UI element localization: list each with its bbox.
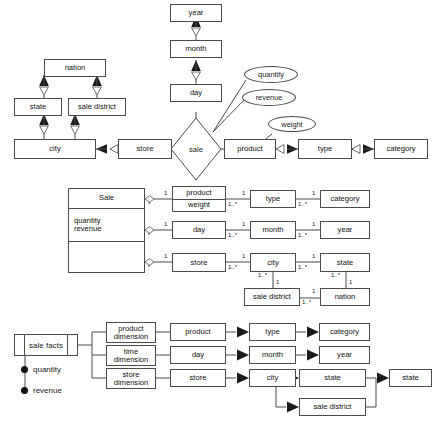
class-sale-attributes: quantity revenue [74, 217, 101, 233]
measure-bullet-revenue [21, 387, 28, 394]
measure-bullet-quantity [21, 366, 28, 373]
er-entity-day[interactable]: day [170, 84, 222, 102]
er-entity-product[interactable]: product [224, 139, 276, 159]
level-month[interactable]: month [249, 346, 296, 364]
fact-label: sale facts [29, 341, 63, 350]
class-category[interactable]: category [320, 190, 370, 208]
class-day-label: day [193, 226, 205, 234]
er-attribute-quantity[interactable]: quantity [244, 66, 298, 83]
multiplicity-sale-store-many: * [148, 264, 150, 270]
class-sale-district[interactable]: sale district [244, 288, 300, 306]
multiplicity-month-year-many: 1..* [298, 232, 307, 238]
multiplicity-city-state-one: 1 [312, 253, 315, 259]
level-store[interactable]: store [170, 369, 226, 387]
er-entity-nation[interactable]: nation [44, 59, 106, 77]
er-relationship-sale-label: sale [189, 145, 203, 154]
er-entity-year-label: year [189, 9, 204, 17]
multiplicity-district-nation-many: 1..* [302, 299, 311, 305]
er-entity-category[interactable]: category [374, 139, 428, 159]
dimension-store-dimension[interactable]: store dimension [106, 368, 156, 389]
multiplicity-day-month-one: 1 [242, 221, 245, 227]
class-sale-attributes-compartment: quantity revenue [69, 209, 144, 243]
er-entity-store-label: store [137, 145, 154, 153]
multiplicity-type-category-many: 1..* [298, 201, 307, 207]
level-state-final[interactable]: state [389, 369, 432, 387]
level-sale-district[interactable]: sale district [299, 398, 366, 416]
er-entity-sale-district[interactable]: sale district [68, 98, 126, 116]
dimension-product-dimension[interactable]: product dimension [106, 322, 156, 343]
class-month[interactable]: month [250, 221, 296, 239]
level-store-label: store [190, 374, 207, 382]
class-product[interactable]: product weight [172, 186, 226, 212]
dimension-store-dimension-label: store dimension [114, 371, 149, 387]
level-day[interactable]: day [170, 346, 226, 364]
level-state-label: state [324, 374, 340, 382]
er-entity-state[interactable]: state [14, 98, 62, 116]
class-day[interactable]: day [172, 221, 226, 239]
class-state-label: state [337, 259, 353, 267]
er-entity-state-label: state [30, 103, 46, 111]
class-sale-district-label: sale district [253, 293, 291, 301]
multiplicity-month-year-one: 1 [312, 221, 315, 227]
multiplicity-state-nation-many: 1..* [331, 272, 340, 278]
er-attribute-weight-label: weight [281, 120, 302, 129]
er-attribute-weight[interactable]: weight [268, 116, 316, 132]
level-type[interactable]: type [249, 323, 296, 341]
dimension-time-dimension[interactable]: time dimension [106, 345, 156, 366]
class-year-label: year [338, 226, 353, 234]
multiplicity-store-one: 1 [164, 253, 167, 259]
level-product[interactable]: product [170, 323, 226, 341]
level-category-label: category [330, 328, 359, 336]
fact-center: sale facts [25, 335, 67, 355]
class-year[interactable]: year [320, 221, 370, 239]
er-entity-store[interactable]: store [118, 139, 172, 159]
dimension-product-dimension-label: product dimension [114, 325, 149, 341]
multiplicity-city-state-many: 1..* [298, 264, 307, 270]
er-entity-nation-label: nation [65, 64, 86, 72]
class-type[interactable]: type [250, 190, 296, 208]
multiplicity-day-month-many: 1..* [228, 232, 237, 238]
fact-table-sale-facts[interactable]: sale facts [14, 334, 78, 356]
level-city[interactable]: city [249, 369, 296, 387]
level-day-label: day [192, 351, 204, 359]
class-product-attributes-compartment: weight [173, 200, 225, 212]
er-entity-city[interactable]: city [14, 139, 96, 159]
level-year[interactable]: year [319, 346, 370, 364]
level-category[interactable]: category [319, 323, 370, 341]
class-state[interactable]: state [320, 253, 370, 272]
level-product-label: product [185, 328, 210, 336]
fact-endcap-right [67, 335, 77, 355]
fact-endcap-left [15, 335, 25, 355]
class-sale-operations-compartment [69, 242, 144, 272]
measure-quantity: quantity [33, 365, 61, 374]
class-sale[interactable]: Sale quantity revenue [68, 188, 145, 273]
er-relationship-sale[interactable]: sale [170, 117, 222, 181]
er-entity-type[interactable]: type [298, 139, 352, 159]
er-entity-year[interactable]: year [170, 4, 222, 22]
class-product-attributes: weight [188, 201, 210, 209]
multiplicity-city-district-many: 1..* [258, 272, 267, 278]
class-city[interactable]: city [250, 253, 296, 272]
dimension-time-dimension-label: time dimension [114, 348, 149, 364]
er-entity-sale-district-label: sale district [78, 103, 116, 111]
level-state[interactable]: state [299, 369, 366, 387]
class-store-label: store [191, 259, 208, 267]
class-month-label: month [262, 226, 283, 234]
er-entity-month-label: month [185, 45, 206, 53]
level-year-label: year [337, 351, 352, 359]
multiplicity-store-city-one: 1 [242, 253, 245, 259]
er-attribute-revenue[interactable]: revenue [242, 89, 296, 106]
er-entity-month[interactable]: month [170, 40, 222, 58]
multiplicity-product-type-one: 1 [242, 190, 245, 196]
multiplicity-district-nation-one: 1 [312, 288, 315, 294]
class-city-label: city [267, 259, 278, 267]
multiplicity-type-category-one: 1 [312, 190, 315, 196]
measure-revenue: revenue [33, 386, 62, 395]
class-sale-name-compartment: Sale [69, 189, 144, 209]
class-store[interactable]: store [172, 253, 226, 272]
er-attribute-revenue-label: revenue [256, 93, 283, 102]
multiplicity-sale-day-many: * [148, 232, 150, 238]
level-month-label: month [262, 351, 283, 359]
class-nation[interactable]: nation [320, 288, 370, 306]
class-category-label: category [330, 195, 359, 203]
